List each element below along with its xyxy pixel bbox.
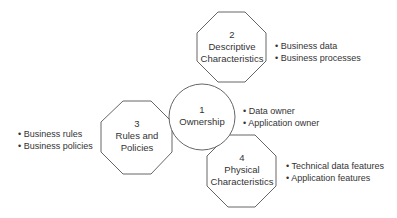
node-2-title-line-2: Characteristics [192, 53, 272, 65]
node-3-label: 3 Rules and Policies [100, 118, 174, 154]
bullet-item: Data owner [243, 105, 319, 117]
node-2-title-line-1: Descriptive [192, 41, 272, 53]
node-1-label: 1 Ownership [170, 104, 234, 128]
node-3-title-line-1: Rules and [100, 130, 174, 142]
bullet-item: Application owner [243, 117, 319, 129]
bullet-item: Business rules [18, 128, 93, 140]
node-4-bullets: Technical data features Application feat… [286, 160, 384, 184]
bullet-item: Technical data features [286, 160, 384, 172]
bullet-item: Business processes [275, 52, 361, 64]
node-1-number: 1 [170, 104, 234, 116]
node-1-title: Ownership [170, 116, 234, 128]
node-4-number: 4 [202, 152, 282, 164]
node-3-title-line-2: Policies [100, 142, 174, 154]
node-2-bullets: Business data Business processes [275, 40, 361, 64]
node-4-label: 4 Physical Characteristics [202, 152, 282, 188]
node-2-number: 2 [192, 29, 272, 41]
node-3-bullets: Business rules Business policies [18, 128, 93, 152]
node-3-number: 3 [100, 118, 174, 130]
node-1-bullets: Data owner Application owner [243, 105, 319, 129]
node-4-title-line-2: Characteristics [202, 176, 282, 188]
node-4-title-line-1: Physical [202, 164, 282, 176]
bullet-item: Business policies [18, 140, 93, 152]
bullet-item: Application features [286, 172, 384, 184]
bullet-item: Business data [275, 40, 361, 52]
node-2-label: 2 Descriptive Characteristics [192, 29, 272, 65]
